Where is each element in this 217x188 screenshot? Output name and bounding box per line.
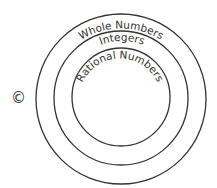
label-rational-numbers: Rational Numbers (74, 48, 167, 83)
nested-circles-diagram: Whole Numbers Integers Rational Numbers (0, 0, 217, 188)
label-integers: Integers (97, 31, 146, 47)
